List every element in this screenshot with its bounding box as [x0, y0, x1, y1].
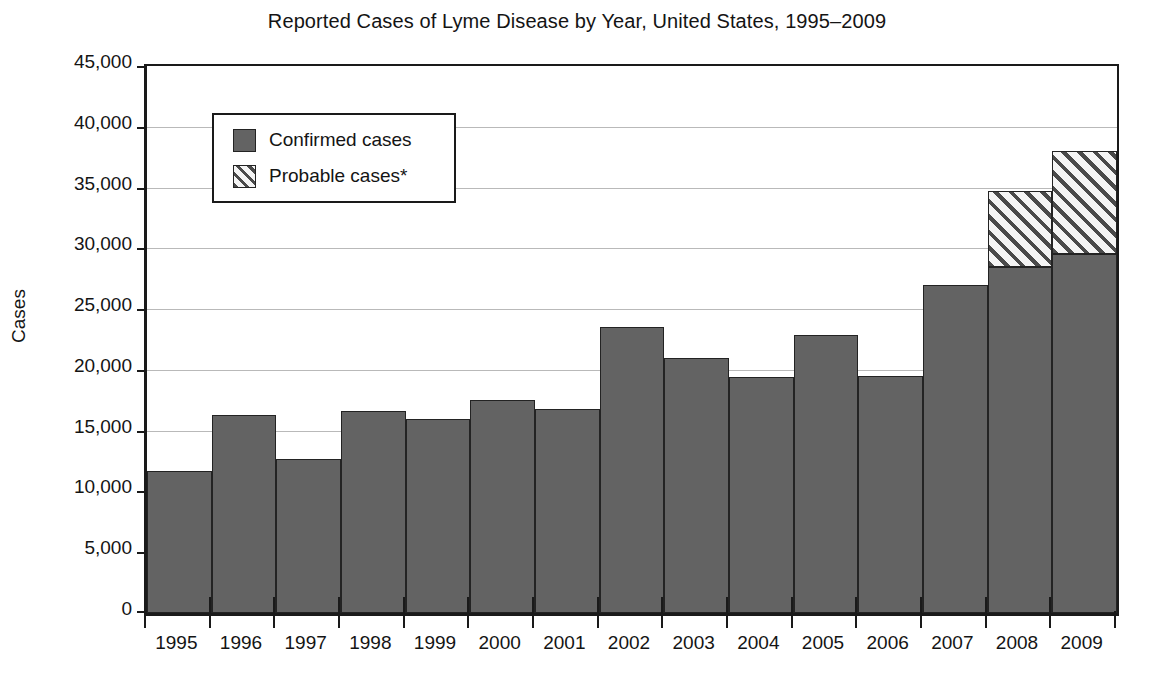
x-axis-tick-label: 2001 [532, 632, 597, 654]
x-axis-tick [467, 611, 469, 628]
x-axis-tick [403, 611, 405, 628]
bar-segment-confirmed [923, 285, 988, 613]
x-axis-tick [661, 611, 663, 628]
lyme-disease-bar-chart: Reported Cases of Lyme Disease by Year, … [0, 0, 1154, 678]
x-axis-tick-label: 2002 [597, 632, 662, 654]
bar-group [535, 66, 600, 613]
x-axis-tick-label: 2003 [661, 632, 726, 654]
x-axis-tick [209, 611, 211, 628]
x-axis-tick-label: 1999 [403, 632, 468, 654]
x-axis-tick [338, 611, 340, 628]
bar-segment-confirmed [341, 411, 406, 613]
x-axis-tick-label: 1997 [273, 632, 338, 654]
x-axis-tick [726, 611, 728, 628]
bar-segment-confirmed [600, 327, 665, 613]
legend: Confirmed cases Probable cases* [212, 113, 456, 203]
bar-segment-confirmed [406, 419, 471, 613]
x-axis-tick [273, 611, 275, 628]
x-axis-tick-label: 2009 [1049, 632, 1114, 654]
y-axis-tick-label: 25,000 [12, 294, 132, 316]
y-axis-tick [137, 552, 147, 554]
bar-group [147, 66, 212, 613]
bar-segment-confirmed [470, 400, 535, 613]
legend-item-probable: Probable cases* [233, 162, 407, 190]
x-axis-tick-label: 2006 [855, 632, 920, 654]
legend-swatch-probable-icon [233, 165, 256, 188]
x-axis-tick-label: 2004 [726, 632, 791, 654]
bar-group [470, 66, 535, 613]
x-axis-tick-label: 2005 [791, 632, 856, 654]
bar-segment-probable [988, 191, 1053, 266]
legend-label-confirmed: Confirmed cases [269, 129, 412, 151]
x-axis-tick-label: 1996 [209, 632, 274, 654]
x-axis-tick [144, 611, 146, 628]
bar-group [600, 66, 665, 613]
y-axis-tick [137, 370, 147, 372]
y-axis-tick-label: 15,000 [12, 416, 132, 438]
bar-segment-confirmed [1052, 254, 1117, 613]
y-axis-tick [137, 309, 147, 311]
bar-segment-confirmed [858, 376, 923, 613]
y-axis-tick [137, 188, 147, 190]
bar-group [988, 66, 1053, 613]
bar-group [794, 66, 859, 613]
x-axis-tick [1049, 611, 1051, 628]
x-axis-tick-label: 2000 [467, 632, 532, 654]
bar-segment-confirmed [276, 459, 341, 613]
y-axis-tick-label: 30,000 [12, 233, 132, 255]
bar-group [1052, 66, 1117, 613]
y-axis-tick-label: 35,000 [12, 173, 132, 195]
legend-swatch-confirmed-icon [233, 129, 256, 152]
x-axis-tick [597, 611, 599, 628]
bar-segment-confirmed [147, 471, 212, 613]
legend-label-probable: Probable cases* [269, 165, 407, 187]
bar-group [664, 66, 729, 613]
x-axis-tick-label: 1998 [338, 632, 403, 654]
y-axis-tick [137, 66, 147, 68]
bar-segment-probable [1052, 151, 1117, 254]
x-axis-tick-label: 2008 [985, 632, 1050, 654]
y-axis-tick-label: 10,000 [12, 476, 132, 498]
x-axis-tick [532, 611, 534, 628]
bar-segment-confirmed [535, 409, 600, 613]
bar-segment-confirmed [212, 415, 277, 613]
bar-segment-confirmed [988, 267, 1053, 613]
x-axis-tick [920, 611, 922, 628]
bar-segment-confirmed [664, 358, 729, 613]
y-axis-tick [137, 248, 147, 250]
bar-group [923, 66, 988, 613]
bar-segment-confirmed [794, 335, 859, 613]
x-axis-tick [985, 611, 987, 628]
x-axis-tick [855, 611, 857, 628]
y-axis-tick [137, 127, 147, 129]
legend-item-confirmed: Confirmed cases [233, 126, 412, 154]
x-axis-tick [791, 611, 793, 628]
x-axis-tick-labels: 1995199619971998199920002001200220032004… [144, 632, 1114, 662]
x-axis-ticks [144, 611, 1116, 629]
y-axis-tick-label: 20,000 [12, 355, 132, 377]
y-axis-tick-labels: 05,00010,00015,00020,00025,00030,00035,0… [0, 64, 132, 611]
y-axis-tick-label: 45,000 [12, 51, 132, 73]
y-axis-tick-label: 5,000 [12, 537, 132, 559]
y-axis-tick [137, 431, 147, 433]
x-axis-tick-label: 1995 [144, 632, 209, 654]
y-axis-tick-label: 40,000 [12, 112, 132, 134]
bar-group [858, 66, 923, 613]
x-axis-tick [1114, 611, 1116, 628]
y-axis-tick-label: 0 [12, 598, 132, 620]
bar-group [729, 66, 794, 613]
x-axis-tick-label: 2007 [920, 632, 985, 654]
y-axis-tick [137, 491, 147, 493]
chart-title: Reported Cases of Lyme Disease by Year, … [0, 10, 1154, 33]
bar-segment-confirmed [729, 377, 794, 613]
